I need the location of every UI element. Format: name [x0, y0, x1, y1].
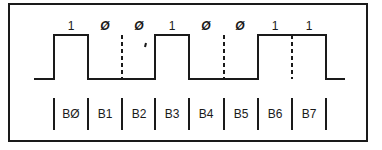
waveform — [0, 0, 382, 150]
bit-value-3: 1 — [169, 19, 176, 33]
bit-label-3: B3 — [165, 107, 180, 121]
bit-label-1: B1 — [98, 107, 113, 121]
bit-label-4: B4 — [199, 107, 214, 121]
bit-value-0: 1 — [68, 19, 75, 33]
tick-mark — [145, 43, 146, 47]
bit-label-7: B7 — [302, 107, 317, 121]
bit-value-5: Ø — [235, 19, 244, 33]
bit-value-6: 1 — [272, 19, 279, 33]
bit-value-7: 1 — [306, 19, 313, 33]
bit-label-0: BØ — [62, 107, 79, 121]
bit-label-2: B2 — [132, 107, 147, 121]
bit-value-4: Ø — [201, 19, 210, 33]
bit-label-5: B5 — [234, 107, 249, 121]
signal-line — [34, 35, 345, 79]
cell-dividers — [54, 98, 326, 130]
bit-label-6: B6 — [268, 107, 283, 121]
bit-value-2: Ø — [134, 19, 143, 33]
bit-value-1: Ø — [100, 19, 109, 33]
